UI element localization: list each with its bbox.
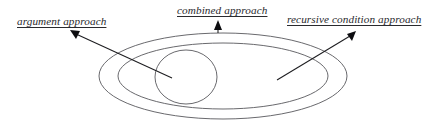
label-recursive-condition-approach: recursive condition approach xyxy=(287,13,421,25)
label-argument-approach: argument approach xyxy=(17,15,106,27)
label-combined-approach: combined approach xyxy=(177,4,267,16)
diagram-figure: argument approach combined approach recu… xyxy=(0,0,442,126)
